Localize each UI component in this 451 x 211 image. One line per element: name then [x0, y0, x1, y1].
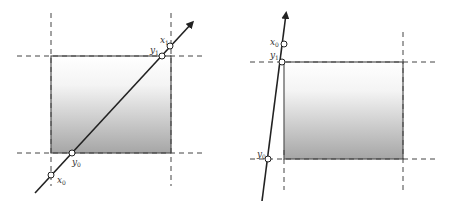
- clipping-diagram: x0 y0 y1 x1 x0 y1 y0: [0, 0, 451, 211]
- left-panel: x0 y0 y1 x1: [17, 13, 205, 193]
- intersection-point-x0: [48, 172, 54, 178]
- intersection-point-y1: [159, 53, 165, 59]
- label-x0: x0: [270, 37, 279, 48]
- label-x0: x0: [57, 175, 66, 186]
- label-y0: y0: [256, 149, 266, 160]
- intersection-point-x0: [281, 41, 287, 47]
- label-x1: x1: [160, 35, 169, 46]
- clip-window: [51, 56, 171, 153]
- intersection-point-y0: [69, 150, 75, 156]
- right-panel: x0 y1 y0: [250, 14, 437, 201]
- label-y1: y1: [269, 50, 279, 61]
- label-y1: y1: [149, 45, 159, 56]
- clip-window: [284, 62, 403, 159]
- label-y0: y0: [71, 157, 81, 168]
- intersection-point-y1: [279, 59, 285, 65]
